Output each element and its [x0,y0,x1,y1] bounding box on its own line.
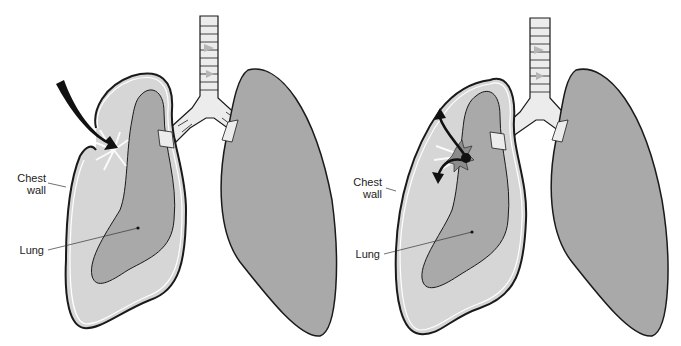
panel-tension-pneumothorax: Chest wall Lung [340,0,680,346]
panel-open-pneumothorax: Chest wall Lung [0,0,340,346]
lung-diagram-left [0,0,340,346]
label-lung: Lung [340,248,380,260]
label-chest: Chest [6,172,46,184]
label-wall: wall [340,188,382,200]
label-lung: Lung [4,244,44,256]
label-chest-wall: Chest wall [340,176,382,200]
lung-diagram-right [340,0,681,346]
label-wall: wall [6,184,46,196]
right-lung [221,69,336,336]
right-lung [551,69,668,336]
label-chest-wall: Chest wall [6,172,46,196]
label-chest: Chest [340,176,382,188]
